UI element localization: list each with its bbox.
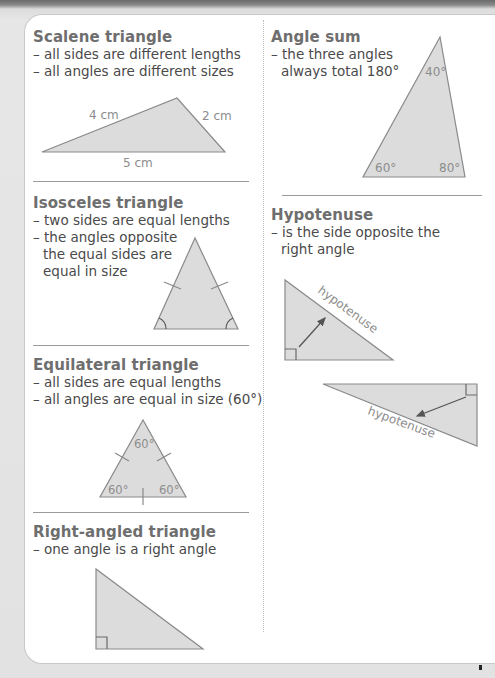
page-edge-mark: [479, 665, 482, 670]
